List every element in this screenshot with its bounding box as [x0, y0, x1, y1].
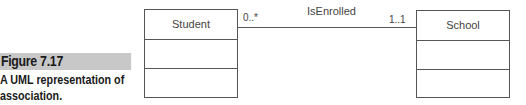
school-attributes-section	[417, 41, 509, 70]
student-class-name: Student	[145, 10, 237, 40]
figure-caption: Figure 7.17 A UML representation of asso…	[0, 53, 130, 104]
student-operations-section	[145, 69, 237, 98]
school-operations-section	[417, 70, 509, 99]
student-attributes-section	[145, 40, 237, 69]
association-name: IsEnrolled	[307, 5, 356, 17]
school-class-name: School	[417, 11, 509, 41]
source-multiplicity: 0..*	[243, 12, 258, 23]
figure-description: A UML representation of association.	[0, 72, 138, 104]
student-class-box: Student	[144, 9, 238, 98]
figure-label: Figure 7.17	[0, 53, 131, 70]
school-class-box: School	[416, 10, 510, 98]
association-line	[238, 27, 416, 28]
target-multiplicity: 1..1	[389, 14, 406, 25]
